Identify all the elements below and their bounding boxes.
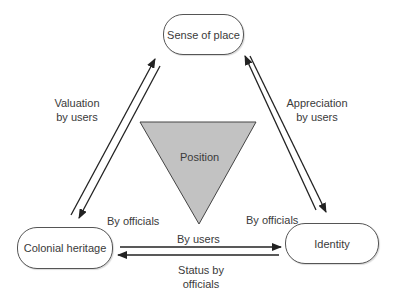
node-colonial-heritage-label: Colonial heritage bbox=[24, 242, 107, 254]
appreciation-label: Appreciation by users bbox=[282, 96, 352, 124]
status-by-officials-label: Status by officials bbox=[172, 263, 230, 291]
left-by-officials-label: By officials bbox=[107, 214, 159, 228]
node-identity: Identity bbox=[285, 223, 379, 264]
arrow-identity-to-sense bbox=[245, 56, 316, 210]
node-colonial-heritage: Colonial heritage bbox=[17, 227, 113, 269]
by-users-label: By users bbox=[177, 232, 220, 246]
arrow-sense-to-identity bbox=[250, 56, 326, 212]
valuation-label: Valuation by users bbox=[48, 96, 106, 124]
node-identity-label: Identity bbox=[314, 238, 349, 250]
node-sense-of-place: Sense of place bbox=[163, 14, 244, 55]
node-sense-of-place-label: Sense of place bbox=[167, 29, 240, 41]
right-by-officials-label: By officials bbox=[246, 213, 298, 227]
arrow-sense-to-colonial bbox=[79, 66, 160, 218]
arrow-colonial-to-sense bbox=[71, 59, 155, 215]
position-triangle bbox=[140, 122, 256, 224]
position-label: Position bbox=[180, 151, 219, 163]
